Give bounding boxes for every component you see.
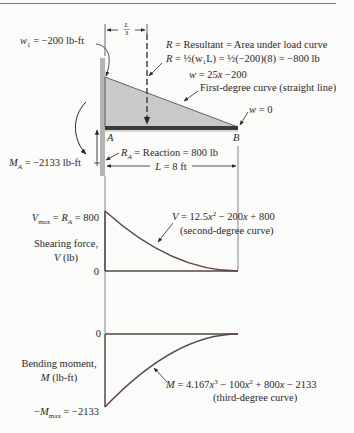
resultant-leader bbox=[149, 63, 162, 76]
moment-equation: M = 4.167x3 − 100x2 + 800x − 2133 bbox=[165, 378, 317, 390]
moment-axis-title-line2: M (lb-ft) bbox=[40, 372, 78, 384]
beam-diagram-figure: L 3 w1 = −200 lb-ft R = Resultant = Area… bbox=[0, 0, 354, 433]
w1-label: w1 = −200 lb-ft bbox=[20, 35, 84, 49]
reaction-label: RA = Reaction = 800 lb bbox=[120, 147, 218, 161]
load-curve-leader bbox=[184, 91, 198, 101]
moment-degree-note: (third-degree curve) bbox=[213, 392, 298, 404]
load-equation: w = 25x −200 bbox=[189, 69, 247, 80]
vmax-label: Vmax = RA = 800 bbox=[32, 212, 99, 226]
beam-diagram: L 3 w1 = −200 lb-ft R = Resultant = Area… bbox=[8, 21, 337, 176]
length-label: L = 8 ft bbox=[154, 161, 186, 172]
shear-equation: V = 12.5x2 − 200x + 800 bbox=[172, 210, 275, 222]
fixed-wall bbox=[100, 58, 105, 176]
reaction-leader bbox=[106, 153, 119, 160]
shear-axis-title-line2: V (lb) bbox=[54, 252, 79, 264]
resultant-calculation: R = ½(w₁L) = ½(−200)(8) = −800 lb bbox=[165, 53, 320, 65]
shear-equation-leader bbox=[158, 223, 173, 242]
w-zero-label: w = 0 bbox=[249, 104, 272, 115]
mmax-label: −Mmax = −2133 bbox=[34, 406, 99, 420]
point-A-label: A bbox=[106, 132, 114, 143]
point-B-label: B bbox=[233, 132, 240, 143]
dim-L-numerator: L bbox=[124, 21, 129, 29]
moment-reaction-arc bbox=[75, 102, 86, 154]
moment-zero-label: 0 bbox=[96, 328, 101, 339]
resultant-definition: R = Resultant = Area under load curve bbox=[165, 39, 328, 50]
shear-zero-label: 0 bbox=[94, 266, 99, 277]
shear-axis-title-line1: Shearing force, bbox=[34, 238, 98, 249]
load-curve-note: First-degree curve (straight line) bbox=[200, 82, 337, 94]
figure-canvas: L 3 w1 = −200 lb-ft R = Resultant = Area… bbox=[0, 0, 354, 433]
w-zero-leader bbox=[240, 112, 248, 125]
beam bbox=[105, 126, 238, 130]
moment-diagram: 0 Bending moment, M (lb-ft) −Mmax = −213… bbox=[21, 328, 316, 420]
shear-degree-note: (second-degree curve) bbox=[180, 225, 274, 237]
moment-axis-title-line1: Bending moment, bbox=[21, 358, 96, 369]
moment-equation-leader bbox=[154, 368, 167, 382]
moment-reaction-label: MA = −2133 lb-ft bbox=[8, 157, 81, 171]
dim-L-denominator: 3 bbox=[125, 29, 129, 37]
